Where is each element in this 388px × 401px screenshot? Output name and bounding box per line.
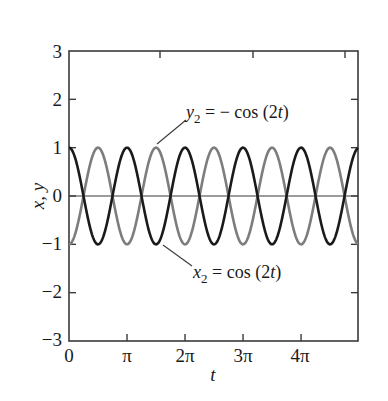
y2-annotation: y2 = − cos (2t) [184, 102, 289, 126]
xtick-label: 4π [290, 345, 310, 366]
y2-annotation-close: ) [283, 102, 289, 123]
ytick-label: −3 [42, 329, 62, 350]
y-axis-title: x, y [27, 182, 48, 210]
x2-annotation-eq: = cos (2 [208, 262, 271, 283]
x2-annotation-var: x [192, 262, 201, 282]
x2-leader-line [163, 245, 192, 266]
xtick-label: 2π [175, 345, 195, 366]
xtick-label: π [122, 345, 132, 366]
chart: 3 2 1 0 −1 −2 −3 0 π 2π 3π 4π t x, y y2 … [0, 0, 388, 401]
y2-leader-line [157, 120, 186, 144]
y2-annotation-eq: = − cos (2 [201, 102, 278, 123]
ytick-label: 2 [53, 89, 63, 110]
x2-annotation-close: ) [275, 262, 281, 283]
y2-annotation-var: y [184, 102, 194, 122]
ytick-label: 1 [53, 137, 63, 158]
xtick-label: 0 [64, 345, 74, 366]
x2-annotation: x2 = cos (2t) [192, 262, 281, 286]
ytick-label: −2 [42, 281, 62, 302]
x-axis-title: t [210, 364, 216, 385]
ytick-label: −1 [42, 233, 62, 254]
xtick-label: 3π [233, 345, 253, 366]
ytick-label: 3 [53, 41, 63, 62]
ytick-label: 0 [53, 185, 63, 206]
